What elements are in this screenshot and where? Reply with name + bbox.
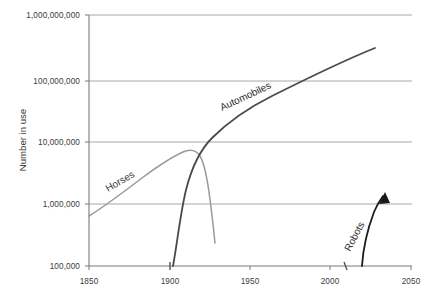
y-tick-label-10000000: 10,000,000 [38,138,80,147]
x-tick-label-1950: 1950 [241,277,260,286]
x-tick-label-1850: 1850 [80,277,99,286]
x-tick-label-2000: 2000 [321,277,340,286]
y-tick-label-1000000000: 1,000,000,000 [26,11,80,20]
x-tick-label-1900: 1900 [161,277,180,286]
y-tick-label-100000000: 100,000,000 [33,77,80,86]
y-axis-ticks [85,15,89,266]
y-tick-label-1000000: 1,000,000 [43,200,81,209]
y-tick-label-100000: 100,000 [50,262,81,271]
y-axis-title: Number in use [17,109,28,171]
chart-container: 1,000,000,000 100,000,000 10,000,000 1,0… [0,0,429,297]
line-chart: 1,000,000,000 100,000,000 10,000,000 1,0… [0,0,429,297]
x-tick-label-2050: 2050 [402,277,421,286]
